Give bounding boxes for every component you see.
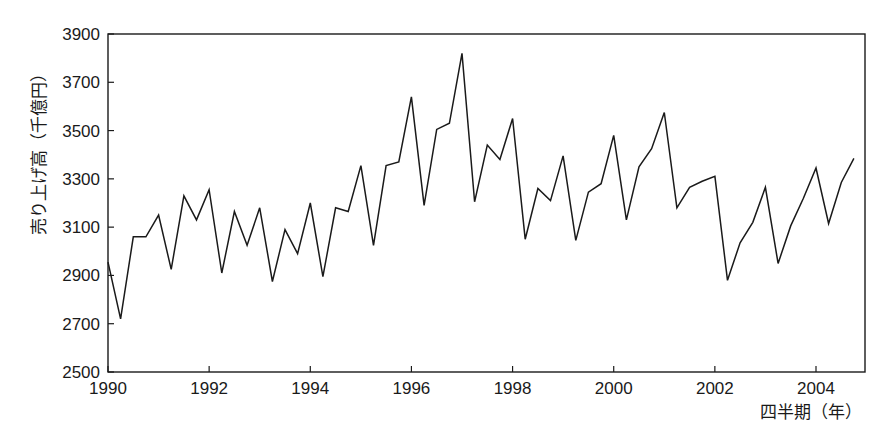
- sales-series-line: [108, 53, 854, 319]
- x-axis-ticks: 19901992199419961998200020022004: [89, 366, 835, 398]
- y-tick-label: 3300: [62, 170, 100, 189]
- y-tick-label: 3900: [62, 25, 100, 44]
- x-tick-label: 2004: [797, 379, 835, 398]
- x-tick-label: 1994: [291, 379, 329, 398]
- y-tick-label: 3100: [62, 218, 100, 237]
- line-chart: 25002700290031003300350037003900 1990199…: [0, 0, 885, 447]
- plot-frame: [108, 34, 865, 372]
- y-axis-title: 売り上げ高（千億円）: [29, 65, 49, 235]
- x-tick-label: 1992: [190, 379, 228, 398]
- y-tick-label: 3700: [62, 73, 100, 92]
- y-tick-label: 3500: [62, 122, 100, 141]
- x-tick-label: 2002: [696, 379, 734, 398]
- y-tick-label: 2900: [62, 266, 100, 285]
- x-tick-label: 1990: [89, 379, 127, 398]
- x-axis-title: 四半期（年）: [760, 402, 862, 422]
- x-tick-label: 2000: [595, 379, 633, 398]
- x-tick-label: 1998: [494, 379, 532, 398]
- x-tick-label: 1996: [393, 379, 431, 398]
- y-tick-label: 2700: [62, 315, 100, 334]
- y-axis-ticks: 25002700290031003300350037003900: [62, 25, 114, 382]
